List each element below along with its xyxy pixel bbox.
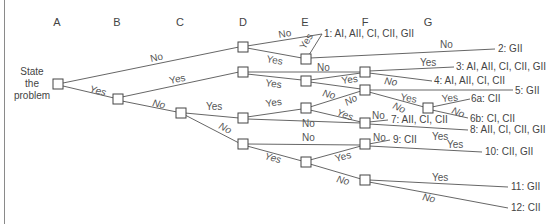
node-e4 — [301, 157, 311, 167]
edge-d3-no: No — [302, 118, 315, 129]
edge-g-yes: Yes — [441, 92, 458, 104]
outcome-1: 1: AI, AII, CI, CII, GII — [324, 28, 414, 39]
edge-c-yes: Yes — [206, 101, 222, 112]
column-b: B — [113, 16, 120, 28]
outcome-6a: 6a: CII — [471, 93, 500, 104]
outcome-6b: 6b: CI, CII — [470, 113, 515, 124]
outcome-9: 9: CII — [393, 134, 417, 145]
edge-e2-yes: Yes — [341, 73, 359, 86]
column-a: A — [53, 16, 61, 28]
node-e3 — [301, 103, 311, 113]
column-d: D — [239, 16, 247, 28]
outcome-10: 10: CII, GII — [485, 146, 533, 157]
edge-f5-no: No — [422, 191, 437, 205]
start-label-line1: State — [20, 66, 44, 77]
node-f1 — [360, 67, 370, 77]
edge-e1-yes: Yes — [297, 31, 315, 51]
node-f5 — [360, 175, 370, 185]
edge-b-no: No — [152, 97, 167, 111]
outcome-3: 3: AI, AII, CI, CII, GII — [456, 61, 546, 72]
edge-d1-no: No — [278, 27, 293, 40]
edge-a-yes: Yes — [89, 83, 108, 98]
outcome-7: 7: AII, CI, CII — [391, 114, 448, 125]
node-f4 — [360, 139, 370, 149]
node-d2 — [238, 67, 248, 77]
edge-d1-yes: Yes — [266, 53, 284, 67]
outcome-12: 12: CII — [511, 202, 540, 213]
node-d1 — [238, 42, 248, 52]
edge-f5-yes: Yes — [432, 172, 448, 183]
edge-e4-no: No — [335, 173, 351, 187]
edge-f4-no: No — [373, 132, 386, 143]
node-f2 — [360, 85, 370, 95]
outcome-11: 11: GII — [511, 181, 540, 192]
outcome-4: 4: AI, AII, CI, CII — [434, 75, 505, 86]
edge-f1-yes: Yes — [420, 57, 436, 68]
column-f: F — [362, 16, 369, 28]
column-e: E — [301, 16, 308, 28]
node-c — [176, 108, 186, 118]
edge-f1-no: No — [384, 75, 399, 88]
edge-a-no: No — [149, 50, 164, 64]
outcome-8: 8: AII, CI, CII, GII — [470, 124, 546, 135]
node-d3 — [238, 113, 248, 123]
outcome-5: 5: GII — [515, 85, 539, 96]
node-e2 — [301, 76, 311, 86]
outcome-2: 2: GII — [498, 43, 522, 54]
edge-e3-no: No — [343, 92, 360, 108]
edge-f3-no: No — [372, 110, 385, 121]
column-g: G — [424, 16, 433, 28]
node-e1 — [301, 54, 311, 64]
edge-e3-yes: Yes — [335, 107, 354, 123]
edge-f3-yes: Yes — [432, 131, 448, 142]
node-g — [423, 103, 433, 113]
edge-d3-yes: Yes — [265, 96, 283, 109]
node-a — [53, 79, 63, 89]
edge-c-no: No — [217, 120, 234, 136]
edge-d2-yes: Yes — [265, 77, 283, 90]
node-f3 — [360, 118, 370, 128]
edge-e1-no: No — [440, 39, 453, 50]
edge-d2-no: No — [317, 62, 330, 73]
edge-f4-yes: Yes — [447, 139, 463, 150]
node-d4 — [238, 139, 248, 149]
start-label-line3: problem — [14, 90, 50, 101]
start-label-line2: the — [25, 78, 39, 89]
edge-d4-no: No — [302, 132, 315, 143]
edge-e4-yes: Yes — [334, 149, 353, 164]
column-c: C — [176, 16, 184, 28]
edge-d4-yes: Yes — [263, 150, 282, 165]
decision-tree: A B C D E F G State the problem — [0, 0, 558, 224]
node-b — [113, 94, 123, 104]
